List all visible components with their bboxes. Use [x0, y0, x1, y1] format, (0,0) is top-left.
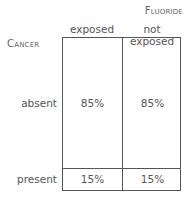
- row-divider: [63, 168, 180, 169]
- column-variable-label: Fluoride: [145, 5, 183, 16]
- row-variable-label: Cancer: [7, 38, 39, 49]
- cell-absent-not-exposed: 85%: [123, 97, 182, 109]
- contingency-table: 85% 85% 15% 15%: [62, 37, 181, 191]
- cell-present-exposed: 15%: [63, 173, 122, 185]
- cell-present-not-exposed: 15%: [123, 173, 182, 185]
- row-label-present: present: [0, 173, 57, 185]
- row-label-absent: absent: [0, 97, 57, 109]
- cell-absent-exposed: 85%: [63, 97, 122, 109]
- column-header-exposed: exposed: [62, 23, 122, 35]
